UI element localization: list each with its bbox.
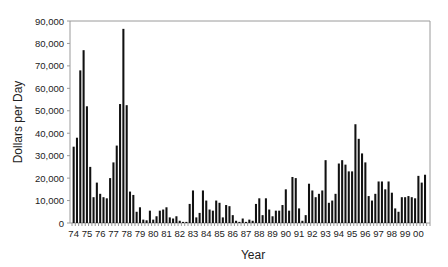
x-tick-label: 81 <box>161 228 172 239</box>
x-tick-label: 78 <box>121 228 132 239</box>
bar <box>159 211 161 223</box>
bar <box>258 198 260 223</box>
bar <box>215 201 217 223</box>
bar <box>228 206 230 223</box>
bar <box>189 204 191 223</box>
bar <box>321 190 323 223</box>
y-tick-label: 60,000 <box>35 83 64 94</box>
bar <box>99 194 101 223</box>
bar <box>421 183 423 223</box>
x-tick-label: 93 <box>320 228 331 239</box>
y-tick-label: 10,000 <box>35 195 64 206</box>
bar <box>315 197 317 223</box>
bar <box>106 198 108 223</box>
bar <box>218 203 220 223</box>
bar-chart: 010,00020,00030,00040,00050,00060,00070,… <box>0 0 448 267</box>
x-tick-label: 97 <box>373 228 384 239</box>
bar <box>414 198 416 223</box>
bar <box>295 178 297 223</box>
x-tick-label: 82 <box>174 228 185 239</box>
bar <box>165 207 167 223</box>
bar <box>364 162 366 223</box>
x-tick-label: 00 <box>413 228 424 239</box>
bar <box>331 201 333 223</box>
y-tick-label: 50,000 <box>35 105 64 116</box>
bar <box>199 213 201 223</box>
bar <box>354 124 356 223</box>
bar <box>325 160 327 223</box>
bar <box>397 212 399 223</box>
bar <box>374 194 376 223</box>
bar <box>102 197 104 223</box>
bar <box>182 222 184 223</box>
y-tick-label: 0 <box>59 218 64 229</box>
bar <box>411 197 413 223</box>
bar <box>109 178 111 223</box>
y-axis-title: Dollars per Day <box>11 81 25 164</box>
bar <box>255 204 257 223</box>
bar <box>351 171 353 223</box>
x-tick-label: 94 <box>334 228 345 239</box>
bar <box>142 220 144 223</box>
x-tick-label: 88 <box>254 228 265 239</box>
bar <box>112 162 114 223</box>
bar <box>96 183 98 223</box>
bar <box>262 215 264 223</box>
bar <box>417 176 419 223</box>
bar <box>116 146 118 223</box>
bar <box>126 105 128 223</box>
bar <box>83 50 85 223</box>
bar <box>268 210 270 223</box>
x-tick-label: 89 <box>267 228 278 239</box>
bar <box>89 167 91 223</box>
bar <box>381 181 383 223</box>
bar <box>179 221 181 223</box>
bar <box>245 222 247 223</box>
bar <box>129 192 131 223</box>
bar <box>248 220 250 223</box>
bar <box>424 175 426 223</box>
y-tick-label: 30,000 <box>35 150 64 161</box>
bar <box>288 211 290 223</box>
x-tick-label: 85 <box>214 228 225 239</box>
bar <box>79 70 81 223</box>
x-axis: 7475767778798081828384858687888990919293… <box>68 223 430 239</box>
bar <box>348 171 350 223</box>
bar <box>146 220 148 223</box>
x-tick-label: 87 <box>241 228 252 239</box>
bar <box>242 219 244 223</box>
bar <box>341 160 343 223</box>
bar <box>252 221 254 223</box>
bar <box>172 219 174 223</box>
bar <box>338 164 340 223</box>
x-tick-label: 75 <box>82 228 93 239</box>
bar <box>122 29 124 223</box>
bar <box>371 201 373 223</box>
bar <box>76 138 78 223</box>
bar <box>272 216 274 223</box>
bar <box>119 104 121 223</box>
bar <box>305 215 307 223</box>
y-tick-label: 90,000 <box>35 16 64 27</box>
x-tick-label: 74 <box>68 228 79 239</box>
bar <box>388 181 390 223</box>
x-tick-label: 80 <box>148 228 159 239</box>
bar <box>328 203 330 223</box>
bar <box>391 193 393 223</box>
bar <box>275 211 277 223</box>
bar <box>285 189 287 223</box>
x-tick-label: 76 <box>95 228 106 239</box>
bar <box>209 210 211 223</box>
x-tick-label: 99 <box>400 228 411 239</box>
bar <box>401 197 403 223</box>
bar <box>149 211 151 223</box>
bar <box>136 212 138 223</box>
x-tick-label: 86 <box>227 228 238 239</box>
bar <box>265 198 267 223</box>
x-tick-label: 77 <box>108 228 119 239</box>
bar <box>301 221 303 223</box>
bar <box>394 208 396 223</box>
y-tick-label: 40,000 <box>35 128 64 139</box>
bar <box>238 222 240 223</box>
bar <box>139 207 141 223</box>
